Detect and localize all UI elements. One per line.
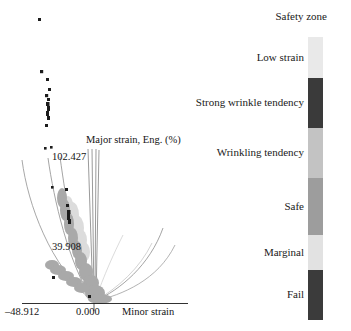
legend-label-low-strain: Low strain (257, 51, 304, 63)
figure-root: Major strain, Eng. (%) Minor strain 102.… (0, 0, 351, 331)
safety-zone-legend: Safety zone Low strainStrong wrinkle ten… (232, 0, 351, 331)
legend-segment-safe[interactable] (308, 178, 323, 235)
axis-title-major-strain: Major strain, Eng. (%) (86, 134, 181, 145)
legend-label-wrinkling-tendency: Wrinkling tendency (217, 146, 304, 158)
legend-segment-fail[interactable] (308, 270, 323, 320)
legend-label-strong-wrinkle-tendency: Strong wrinkle tendency (196, 96, 304, 108)
y-axis-tick-mid: 39.908 (52, 241, 81, 252)
legend-label-safe: Safe (284, 200, 304, 212)
legend-segment-low-strain[interactable] (308, 37, 323, 78)
safety-zone-color-bar (308, 37, 323, 320)
legend-segment-marginal[interactable] (308, 235, 323, 270)
fld-plot-svg (0, 0, 232, 331)
legend-title: Safety zone (275, 10, 327, 22)
forming-limit-diagram: Major strain, Eng. (%) Minor strain 102.… (0, 0, 232, 331)
legend-segment-strong-wrinkle-tendency[interactable] (308, 78, 323, 128)
legend-label-marginal: Marginal (264, 246, 304, 258)
x-axis-tick-zero: 0.000 (76, 306, 100, 317)
axis-title-minor-strain: Minor strain (122, 306, 174, 317)
x-axis-tick-min: –48.912 (5, 306, 39, 317)
legend-label-fail: Fail (287, 288, 304, 300)
curve-marginal-right (95, 228, 163, 301)
legend-segment-wrinkling-tendency[interactable] (308, 128, 323, 178)
y-axis-tick-top: 102.427 (52, 151, 86, 162)
